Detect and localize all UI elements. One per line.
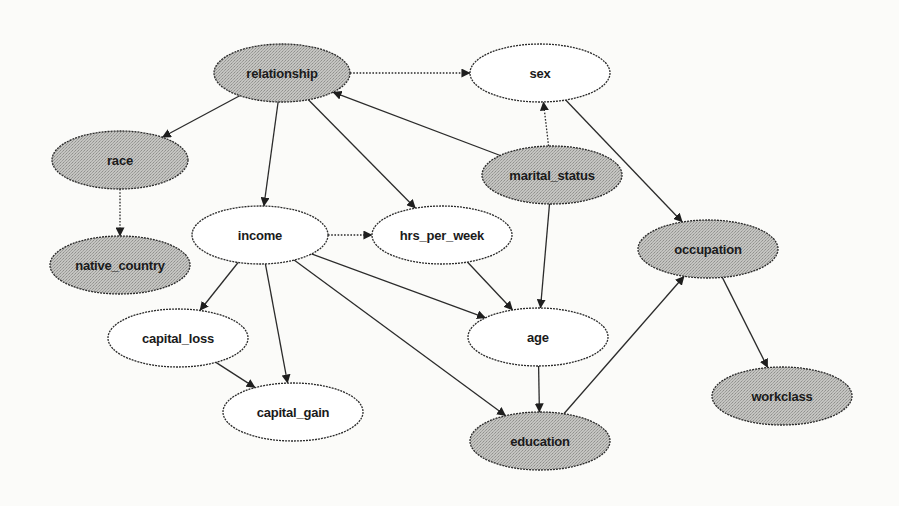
bayesian-network-diagram: relationshipsexracemarital_statusincomeh… [0,0,899,506]
node-age: age [468,308,608,366]
node-label: income [238,228,282,243]
node-income: income [192,206,328,264]
node-label: education [510,434,570,449]
node-label: occupation [674,242,742,257]
node-label: hrs_per_week [400,228,485,243]
node-label: capital_gain [257,405,330,420]
node-label: capital_loss [142,331,214,346]
nodes-layer: relationshipsexracemarital_statusincomeh… [50,44,852,470]
node-label: sex [529,66,551,81]
edge-occupation-to-workclass [722,277,767,367]
node-label: marital_status [509,168,594,183]
edge-relationship-to-income [264,102,278,206]
node-label: native_country [75,258,166,273]
node-workclass: workclass [712,367,852,425]
node-label: relationship [246,66,318,81]
edge-marital-status-to-age [541,204,550,308]
edge-relationship-to-hrs-per-week [308,100,415,209]
node-label: race [107,153,133,168]
edge-marital-status-to-sex [543,102,548,146]
edge-hrs-per-week-to-age [467,262,512,310]
node-hrs-per-week: hrs_per_week [372,206,512,264]
node-race: race [52,131,188,189]
edge-marital-status-to-relationship [333,92,500,155]
edge-capital-loss-to-capital-gain [216,362,255,387]
node-capital-loss: capital_loss [108,309,248,367]
edge-income-to-capital-gain [265,264,287,383]
node-label: age [527,330,549,345]
node-capital-gain: capital_gain [223,383,363,441]
edge-relationship-to-race [162,96,239,138]
node-label: workclass [750,389,812,404]
edge-income-to-capital-loss [200,263,238,311]
edge-age-to-education [539,366,540,412]
node-native-country: native_country [50,236,190,294]
node-occupation: occupation [638,220,778,278]
node-relationship: relationship [214,44,350,102]
node-sex: sex [470,44,610,102]
node-marital-status: marital_status [482,146,622,204]
node-education: education [470,412,610,470]
